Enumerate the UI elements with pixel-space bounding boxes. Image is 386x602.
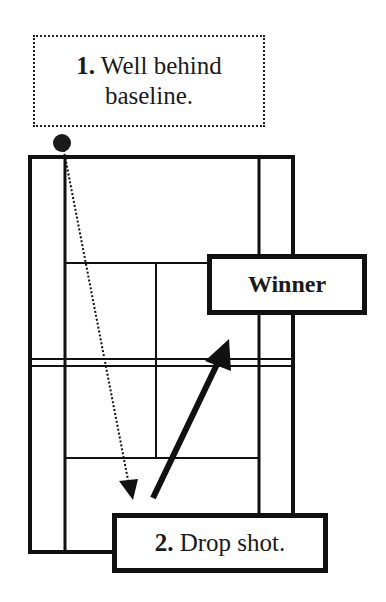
label-well-behind-baseline: 1. Well behind baseline. (33, 35, 265, 127)
player-dot-icon (53, 134, 71, 152)
label-start-number: 1. (76, 52, 95, 79)
label-drop-text: Drop shot. (180, 529, 286, 557)
winner-arrow-line (153, 358, 220, 498)
label-drop-number: 2. (155, 529, 174, 557)
label-drop-shot: 2. Drop shot. (112, 513, 328, 573)
dotted-arrowhead-icon (119, 479, 138, 500)
label-start-text1: Well behind (101, 52, 222, 79)
label-start-line1: 1. Well behind (76, 51, 221, 81)
label-winner: Winner (207, 254, 367, 315)
label-start-line2: baseline. (105, 81, 193, 111)
dotted-trajectory-line (63, 146, 129, 485)
court-outer-boundary (30, 157, 293, 552)
label-winner-text: Winner (248, 271, 326, 298)
